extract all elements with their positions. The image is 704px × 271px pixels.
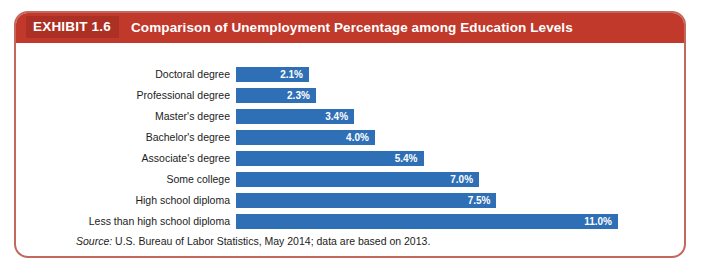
bar-row: High school diploma7.5% <box>16 193 686 208</box>
bar-value-label: 7.0% <box>450 175 473 185</box>
exhibit-header-banner: EXHIBIT 1.6 Comparison of Unemployment P… <box>14 11 686 43</box>
bar-row: Doctoral degree2.1% <box>16 67 686 82</box>
bar-track: 11.0% <box>236 214 686 229</box>
bar-row: Master's degree3.4% <box>16 109 686 124</box>
bar-row: Less than high school diploma11.0% <box>16 214 686 229</box>
bar-value-label: 4.0% <box>346 133 369 143</box>
bar-row: Associate's degree5.4% <box>16 151 686 166</box>
bar-category-label: Less than high school diploma <box>16 216 236 227</box>
bar-category-label: Associate's degree <box>16 153 236 164</box>
bar-row: Some college7.0% <box>16 172 686 187</box>
bar: 5.4% <box>236 151 424 166</box>
bar-track: 5.4% <box>236 151 686 166</box>
bar-track: 4.0% <box>236 130 686 145</box>
bar-track: 3.4% <box>236 109 686 124</box>
source-note: Source: U.S. Bureau of Labor Statistics,… <box>76 235 430 247</box>
bar-value-label: 2.1% <box>280 70 303 80</box>
source-label: Source: <box>76 235 112 247</box>
bar-category-label: Some college <box>16 174 236 185</box>
bar-track: 7.5% <box>236 193 686 208</box>
bar-category-label: Professional degree <box>16 90 236 101</box>
source-text: U.S. Bureau of Labor Statistics, May 201… <box>115 235 430 247</box>
bar-track: 2.3% <box>236 88 686 103</box>
bar-row: Professional degree2.3% <box>16 88 686 103</box>
bar-value-label: 7.5% <box>468 196 491 206</box>
bar: 7.5% <box>236 193 496 208</box>
bar: 3.4% <box>236 109 354 124</box>
bar-category-label: Bachelor's degree <box>16 132 236 143</box>
bar: 11.0% <box>236 214 618 229</box>
bar-row: Bachelor's degree4.0% <box>16 130 686 145</box>
exhibit-title: Comparison of Unemployment Percentage am… <box>131 20 573 35</box>
bar-track: 7.0% <box>236 172 686 187</box>
exhibit-panel: EXHIBIT 1.6 Comparison of Unemployment P… <box>14 11 686 258</box>
bar: 4.0% <box>236 130 375 145</box>
bar-value-label: 11.0% <box>584 217 612 227</box>
bar-track: 2.1% <box>236 67 686 82</box>
bar-category-label: Doctoral degree <box>16 69 236 80</box>
bar-value-label: 3.4% <box>325 112 348 122</box>
bar-value-label: 5.4% <box>395 154 418 164</box>
bar-category-label: Master's degree <box>16 111 236 122</box>
bar-category-label: High school diploma <box>16 195 236 206</box>
bar-value-label: 2.3% <box>287 91 310 101</box>
bar: 7.0% <box>236 172 479 187</box>
bar: 2.3% <box>236 88 316 103</box>
bar: 2.1% <box>236 67 309 82</box>
exhibit-number-badge: EXHIBIT 1.6 <box>26 16 119 38</box>
bar-chart: Doctoral degree2.1%Professional degree2.… <box>16 45 686 258</box>
